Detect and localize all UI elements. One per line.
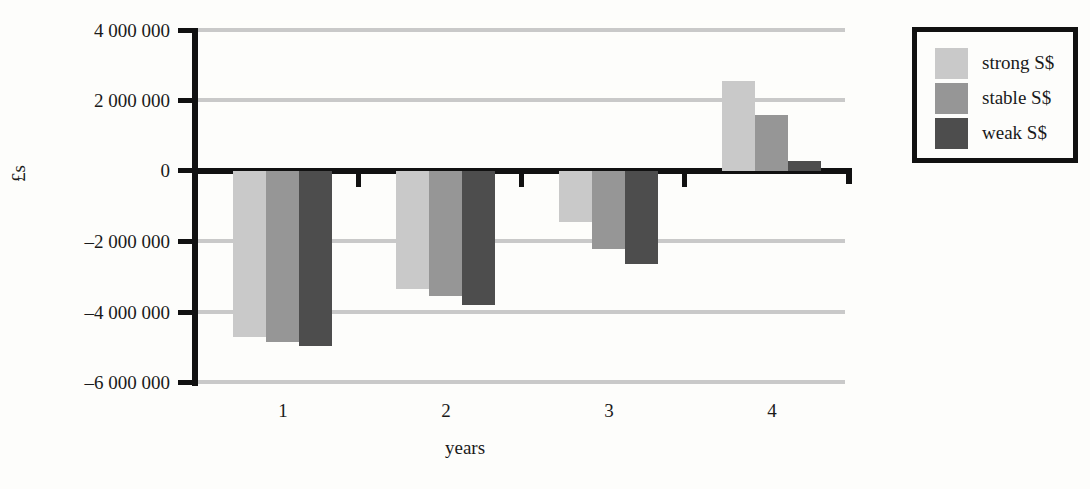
bar-year3-weak [625, 171, 658, 264]
y-tick-label--4000000: –4 000 000 [10, 303, 170, 322]
x-axis-title-text: years [445, 437, 485, 458]
legend-label-weak: weak S$ [982, 122, 1047, 144]
x-category-label-2: 2 [406, 400, 486, 422]
y-tick--6000000 [178, 380, 194, 385]
x-axis-left-cap [192, 168, 198, 184]
bar-year4-stable [755, 115, 788, 171]
legend-item-weak: weak S$ [935, 116, 1047, 150]
bar-year2-stable [429, 171, 462, 296]
legend-item-strong: strong S$ [935, 46, 1054, 80]
bar-year2-weak [462, 171, 495, 305]
bar-year3-strong [559, 171, 592, 222]
gridline-4000000 [196, 28, 845, 32]
x-axis-right-cap [846, 168, 852, 184]
legend-swatch-strong [935, 48, 968, 79]
y-tick--2000000 [178, 239, 194, 244]
gridline--6000000 [196, 380, 845, 384]
y-tick-label-4000000: 4 000 000 [10, 21, 170, 40]
bar-year3-stable [592, 171, 625, 249]
bar-year1-weak [299, 171, 332, 346]
chart-legend: strong S$ stable S$ weak S$ [912, 27, 1078, 163]
bar-year1-stable [266, 171, 299, 342]
y-axis-line [192, 28, 198, 386]
y-tick-2000000 [178, 98, 194, 103]
y-tick-4000000 [178, 28, 194, 33]
y-tick-label--2000000: –2 000 000 [10, 232, 170, 251]
legend-label-stable: stable S$ [982, 87, 1051, 109]
x-category-label-4: 4 [732, 400, 812, 422]
legend-label-strong: strong S$ [982, 52, 1054, 74]
y-tick-label-0: 0 [10, 161, 170, 180]
y-tick-label-2000000: 2 000 000 [10, 91, 170, 110]
x-tick-3 [682, 174, 687, 187]
y-axis-title: £s [8, 165, 30, 182]
x-category-label-3: 3 [569, 400, 649, 422]
x-category-label-1: 1 [243, 400, 323, 422]
bar-year4-weak [788, 161, 821, 171]
y-tick--4000000 [178, 310, 194, 315]
legend-swatch-stable [935, 83, 968, 114]
y-tick-label--6000000: –6 000 000 [10, 373, 170, 392]
bar-year2-strong [396, 171, 429, 289]
legend-item-stable: stable S$ [935, 81, 1051, 115]
x-tick-1 [356, 174, 361, 187]
bar-year1-strong [233, 171, 266, 337]
bar-chart-figure: 4 000 000 2 000 000 0 –2 000 000 –4 000 … [0, 0, 1090, 489]
x-tick-2 [519, 174, 524, 187]
legend-swatch-weak [935, 118, 968, 149]
bar-year4-strong [722, 81, 755, 171]
x-axis-title: years [0, 437, 1090, 459]
